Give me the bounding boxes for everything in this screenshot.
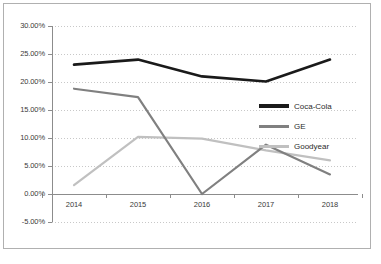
legend-item[interactable]: Goodyear [259, 136, 332, 156]
y-axis-tick-label: 30.00% [4, 21, 45, 30]
y-axis-tick-label: 25.00% [4, 49, 45, 58]
y-axis-tick-label: 15.00% [4, 105, 45, 114]
y-axis-tick-label: -5.00% [4, 217, 45, 226]
legend-item[interactable]: GE [259, 116, 332, 136]
y-axis-tick-label: 10.00% [4, 133, 45, 142]
series-line-coca-cola [74, 60, 330, 82]
x-axis-tick-label: 2014 [54, 200, 94, 209]
chart-screenshot: 30.00%25.00%20.00%15.00%10.00%5.00%0.00%… [0, 0, 381, 264]
legend-swatch-icon [259, 145, 289, 148]
x-axis-tick-label: 2015 [118, 200, 158, 209]
x-axis-tick-label: 2017 [246, 200, 286, 209]
legend-item[interactable]: Coca-Cola [259, 96, 332, 116]
x-axis-tick-label: 2016 [182, 200, 222, 209]
chart-frame: 30.00%25.00%20.00%15.00%10.00%5.00%0.00%… [3, 3, 371, 249]
legend-swatch-icon [259, 104, 289, 108]
legend-item-label: Goodyear [294, 142, 329, 151]
y-axis-tick-label: 5.00% [4, 161, 45, 170]
y-axis-tick-label: 0.00% [4, 189, 45, 198]
legend-item-label: GE [294, 122, 306, 131]
legend-swatch-icon [259, 125, 289, 128]
x-axis-tick-label: 2018 [310, 200, 350, 209]
chart-legend: Coca-ColaGEGoodyear [259, 96, 332, 156]
y-axis-tick-label: 20.00% [4, 77, 45, 86]
legend-item-label: Coca-Cola [294, 102, 332, 111]
